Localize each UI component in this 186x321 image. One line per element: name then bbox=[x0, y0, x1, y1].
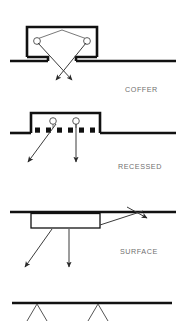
louver-blade bbox=[68, 128, 73, 133]
lamp-icon-recessed-right bbox=[73, 118, 80, 125]
louver-blade bbox=[90, 128, 95, 133]
panel-label-surface: SURFACE bbox=[120, 247, 158, 256]
lighting-mounting-diagram: COFFER RECESSED bbox=[0, 0, 186, 321]
surface-fixture-body bbox=[31, 214, 100, 229]
lamp-icon-coffer-right bbox=[84, 38, 91, 45]
lamp-icon-coffer-left bbox=[34, 38, 41, 45]
panel-label-coffer: COFFER bbox=[125, 85, 158, 94]
louver-blade bbox=[57, 128, 62, 133]
panel-label-recessed: RECESSED bbox=[118, 162, 162, 171]
louver-blade bbox=[35, 128, 40, 133]
louver-blade bbox=[79, 128, 84, 133]
lamp-icon-recessed-left bbox=[50, 118, 57, 125]
